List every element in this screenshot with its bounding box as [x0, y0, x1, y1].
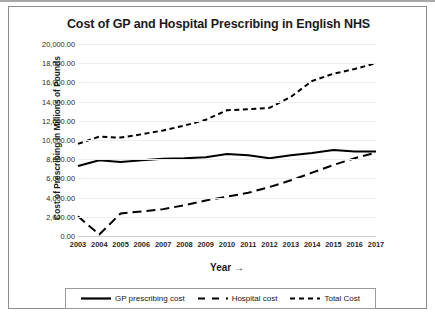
legend-swatch-short-dash-icon — [290, 295, 320, 302]
x-axis-tick-label: 2017 — [368, 240, 384, 249]
y-axis-tick-label: 20,000.00 — [17, 40, 75, 49]
y-axis-ticks: 20,000.0018,000.0016,000.0014,000.0012,0… — [9, 44, 75, 236]
series-line — [78, 150, 376, 166]
y-axis-tick-label: 8,000.00 — [17, 155, 75, 164]
x-axis-tick-label: 2016 — [346, 240, 362, 249]
legend-item[interactable]: GP prescribing cost — [81, 294, 185, 303]
y-axis-tick-label: 6,000.00 — [17, 174, 75, 183]
y-axis-tick-label: 12,000.00 — [17, 116, 75, 125]
x-axis-tick-label: 2012 — [261, 240, 277, 249]
y-axis-tick-label: 14,000.00 — [17, 97, 75, 106]
y-axis-tick-label: 16,000.00 — [17, 78, 75, 87]
legend-item[interactable]: Total Cost — [290, 294, 360, 303]
x-axis-tick-label: 2003 — [70, 240, 86, 249]
gridline — [78, 102, 376, 103]
x-axis-tick-label: 2014 — [304, 240, 320, 249]
gridline — [78, 82, 376, 83]
x-axis-tick-label: 2015 — [325, 240, 341, 249]
legend-item[interactable]: Hospital cost — [198, 294, 278, 303]
x-axis-tick-label: 2004 — [91, 240, 107, 249]
gridline — [78, 159, 376, 160]
gridline — [78, 63, 376, 64]
y-axis-tick-label: 2,000.00 — [17, 212, 75, 221]
gridline — [78, 236, 376, 237]
gridline — [78, 178, 376, 179]
y-axis-tick-label: 10,000.00 — [17, 136, 75, 145]
x-axis-tick-label: 2009 — [197, 240, 213, 249]
chart-container: Cost of GP and Hospital Prescribing in E… — [8, 6, 427, 309]
gridline — [78, 217, 376, 218]
chart-title: Cost of GP and Hospital Prescribing in E… — [9, 17, 428, 31]
page-top-divider — [0, 0, 435, 2]
x-axis-tick-label: 2011 — [240, 240, 256, 249]
x-axis-tick-label: 2007 — [155, 240, 171, 249]
plot-area — [78, 44, 376, 236]
legend-label: GP prescribing cost — [115, 294, 185, 303]
x-axis-label: Year → — [78, 262, 376, 273]
gridline — [78, 140, 376, 141]
chart-legend: GP prescribing costHospital costTotal Co… — [65, 288, 376, 309]
x-axis-tick-label: 2008 — [176, 240, 192, 249]
gridline — [78, 44, 376, 45]
legend-swatch-solid-icon — [81, 295, 111, 302]
y-axis-tick-label: 0.00 — [17, 232, 75, 241]
legend-label: Total Cost — [324, 294, 360, 303]
legend-swatch-long-dash-icon — [198, 295, 228, 302]
x-axis-tick-label: 2005 — [112, 240, 128, 249]
series-line — [78, 152, 376, 234]
chart-screenshot: Cost of GP and Hospital Prescribing in E… — [0, 0, 435, 314]
x-axis-ticks: 2003200420052006200720082009201020112012… — [78, 240, 376, 254]
y-axis-tick-label: 4,000.00 — [17, 193, 75, 202]
x-axis-tick-label: 2013 — [283, 240, 299, 249]
gridline — [78, 198, 376, 199]
legend-label: Hospital cost — [232, 294, 278, 303]
x-axis-tick-label: 2006 — [134, 240, 150, 249]
series-line — [78, 63, 376, 144]
gridline — [78, 121, 376, 122]
x-axis-tick-label: 2010 — [219, 240, 235, 249]
y-axis-tick-label: 18,000.00 — [17, 59, 75, 68]
